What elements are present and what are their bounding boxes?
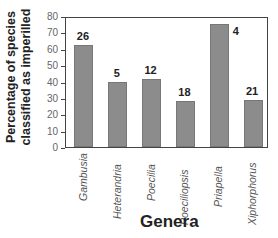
y-tick-mark (61, 148, 65, 149)
y-tick-label: 0 (36, 143, 58, 153)
bar-count-label: 5 (102, 67, 132, 79)
y-tick-label: 70 (36, 28, 58, 38)
x-tick-label: Gambusia (77, 154, 89, 202)
bar-count-label: 26 (68, 30, 98, 42)
y-tick-label: 20 (36, 110, 58, 120)
bar-count-label: 4 (229, 25, 243, 37)
bar-poeciliopsis (176, 101, 195, 147)
x-tick-label: Heterandria (111, 164, 123, 219)
y-tick-label: 10 (36, 127, 58, 137)
x-tick-label: Poecilia (145, 165, 157, 202)
bar-gambusia (74, 45, 93, 147)
bar-xiphorphorus (244, 100, 263, 147)
bar-poecilia (142, 79, 161, 147)
y-tick-label: 60 (36, 45, 58, 55)
x-axis-title: Genera (140, 212, 199, 232)
y-tick-label: 50 (36, 61, 58, 71)
x-tick-label: Priapella (212, 166, 224, 207)
y-axis-title: Percentage of species classified as impe… (4, 7, 34, 147)
bar-heterandria (108, 82, 127, 148)
y-tick-label: 40 (36, 78, 58, 88)
bar-priapella (210, 24, 229, 147)
y-tick-label: 30 (36, 94, 58, 104)
y-tick-label: 80 (36, 12, 58, 22)
bar-count-label: 18 (169, 86, 199, 98)
x-tick-label: Xiphorphorus (246, 162, 258, 224)
bar-count-label: 21 (237, 85, 267, 97)
bar-count-label: 12 (136, 64, 166, 76)
